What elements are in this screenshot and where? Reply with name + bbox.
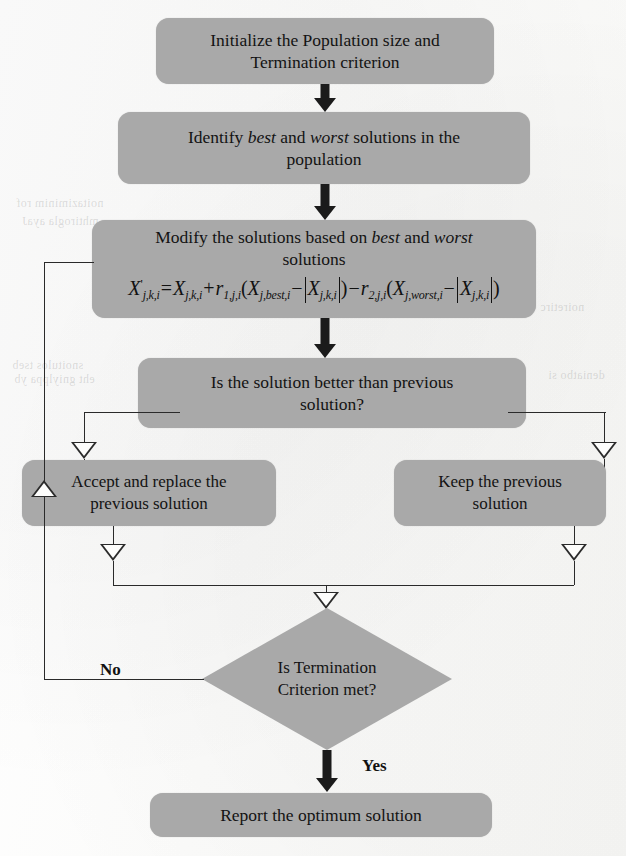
node-termination-line2: Criterion met?	[278, 680, 377, 699]
node-modify-pre: Modify the solutions based on	[155, 227, 371, 247]
connector-merge-bus	[113, 585, 574, 586]
node-initialize-line1: Initialize the Population size and	[210, 30, 439, 50]
node-modify-text: Modify the solutions based on best and w…	[102, 226, 526, 271]
arrow-head-down-icon	[314, 206, 336, 220]
node-modify-line2: solutions	[282, 249, 345, 269]
flowchart-canvas: noitaziminim rof mhtirogla ayaJ snoitulo…	[0, 0, 626, 856]
node-compare[interactable]: Is the solution better than previous sol…	[138, 358, 526, 428]
arrow-head-down-icon	[314, 98, 336, 112]
node-identify-pre: Identify	[188, 127, 248, 147]
ghost-text: mhtirogla ayaJ	[22, 214, 99, 229]
arrow-head-down-icon	[316, 778, 338, 792]
connector-left-down-a	[84, 412, 85, 444]
arrow-shaft	[323, 750, 332, 779]
node-identify-text: Identify best and worst solutions in the…	[128, 126, 520, 171]
node-initialize[interactable]: Initialize the Population size and Termi…	[156, 18, 494, 84]
connector-keep-down-b	[574, 561, 575, 585]
connector-accept-down-a	[113, 526, 114, 546]
node-identify-line2: population	[287, 149, 362, 169]
connector-no-into-modify	[44, 262, 94, 263]
arrow-initialize-to-identify	[313, 84, 337, 112]
connector-keep-down-a	[574, 526, 575, 546]
node-accept-line2: previous solution	[90, 494, 208, 513]
node-accept[interactable]: Accept and replace the previous solution	[22, 460, 276, 526]
node-identify-mid: and	[276, 127, 310, 147]
ghost-text: noiretirc	[540, 300, 584, 315]
node-termination-line1: Is Termination	[277, 658, 376, 677]
node-keep[interactable]: Keep the previous solution	[394, 460, 606, 526]
arrowhead-down-to-termination-icon	[313, 592, 339, 609]
arrowhead-up-feedback-icon	[31, 480, 57, 497]
node-termination[interactable]: Is Termination Criterion met?	[202, 608, 452, 750]
arrow-head-down-icon	[314, 344, 336, 358]
node-initialize-text: Initialize the Population size and Termi…	[166, 29, 484, 74]
node-accept-text: Accept and replace the previous solution	[32, 471, 266, 515]
ghost-text: noitaziminim rof	[16, 196, 103, 211]
arrowhead-down-to-accept-icon	[71, 442, 97, 459]
node-compare-line1: Is the solution better than previous	[211, 372, 454, 392]
node-keep-line2: solution	[473, 494, 528, 513]
arrow-modify-to-compare	[313, 318, 337, 358]
node-modify-em-worst: worst	[434, 227, 473, 247]
label-branch-no: No	[100, 660, 121, 680]
node-modify[interactable]: Modify the solutions based on best and w…	[92, 220, 536, 318]
connector-no-vertical-lower	[44, 497, 45, 680]
arrow-identify-to-modify	[313, 184, 337, 220]
ghost-text: deniatbo si	[548, 368, 605, 383]
arrowhead-down-from-keep-icon	[561, 544, 587, 561]
node-termination-text: Is Termination Criterion met?	[277, 657, 376, 701]
connector-no-vertical-upper	[44, 262, 45, 482]
node-identify[interactable]: Identify best and worst solutions in the…	[118, 112, 530, 184]
formula-jaya-update: X'j,k,i=Xj,k,i+r1,j,i(Xj,best,i−Xj,k,i)−…	[92, 276, 536, 303]
arrowhead-down-to-keep-icon	[591, 442, 617, 459]
arrow-shaft	[321, 184, 330, 207]
node-report[interactable]: Report the optimum solution	[150, 793, 492, 837]
node-keep-text: Keep the previous solution	[404, 471, 596, 515]
connector-compare-left	[84, 412, 180, 413]
arrow-shaft	[321, 318, 330, 345]
node-modify-mid: and	[400, 227, 434, 247]
node-accept-line1: Accept and replace the	[71, 472, 226, 491]
arrow-termination-to-report	[315, 750, 339, 792]
node-identify-em-worst: worst	[310, 127, 349, 147]
connector-no-horizontal	[44, 679, 204, 680]
node-identify-em-best: best	[248, 127, 276, 147]
ghost-text: snoitulos tseb	[12, 358, 83, 373]
connector-accept-down-b	[113, 561, 114, 585]
arrowhead-down-from-accept-icon	[100, 544, 126, 561]
node-compare-text: Is the solution better than previous sol…	[148, 371, 516, 416]
node-report-text: Report the optimum solution	[160, 804, 482, 826]
node-compare-line2: solution?	[300, 394, 364, 414]
node-identify-post: solutions in the	[349, 127, 460, 147]
connector-right-down-a	[604, 412, 605, 444]
node-initialize-line2: Termination criterion	[251, 52, 400, 72]
node-keep-line1: Keep the previous	[438, 472, 562, 491]
label-branch-yes: Yes	[362, 756, 387, 776]
node-modify-em-best: best	[372, 227, 400, 247]
ghost-text: eht gniylppa yb	[14, 372, 95, 387]
connector-compare-right	[508, 412, 606, 413]
